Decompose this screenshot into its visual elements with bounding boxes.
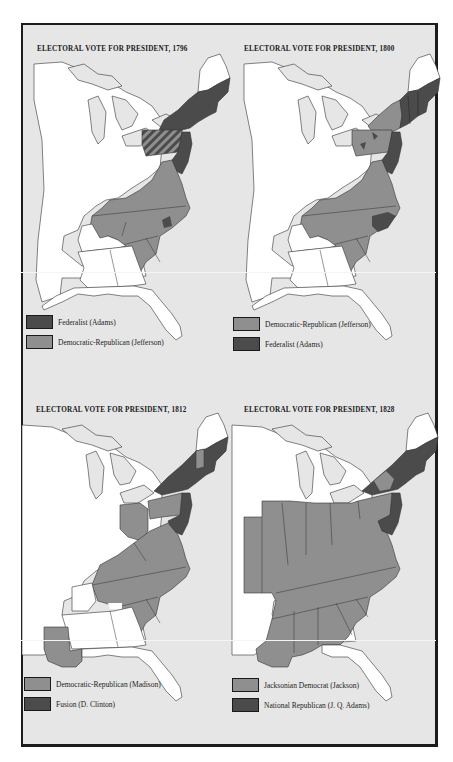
legend-swatch-dark <box>24 697 51 711</box>
legend-swatch-dark <box>26 315 53 329</box>
electoral-maps <box>0 0 453 762</box>
legend-item-fusion-1812: Fusion (D. Clinton) <box>24 697 115 711</box>
legend-label: Democratic-Republican (Jefferson) <box>265 320 371 329</box>
map-1828 <box>232 413 438 701</box>
legend-label: Democratic-Republican (Madison) <box>56 680 161 689</box>
map-1796 <box>34 54 230 340</box>
legend-swatch-dark <box>232 698 259 712</box>
legend-label: Federalist (Adams) <box>265 340 323 349</box>
map-title-1796: ELECTORAL VOTE FOR PRESIDENT, 1796 <box>37 45 188 53</box>
map-title-1828: ELECTORAL VOTE FOR PRESIDENT, 1828 <box>244 406 395 414</box>
page-fold-line <box>21 640 436 641</box>
legend-label: Fusion (D. Clinton) <box>56 700 115 709</box>
legend-item-federalist-1796: Federalist (Adams) <box>26 315 116 329</box>
legend-item-dem-rep-1800: Democratic-Republican (Jefferson) <box>233 317 371 331</box>
legend-label: Federalist (Adams) <box>58 318 116 327</box>
legend-item-dem-rep-1796: Democratic-Republican (Jefferson) <box>26 335 164 349</box>
legend-label: Jacksonian Democrat (Jackson) <box>264 681 359 690</box>
map-1800 <box>244 54 440 340</box>
legend-swatch-light <box>26 335 53 349</box>
legend-swatch-light <box>24 677 51 691</box>
legend-item-jacksonian-1828: Jacksonian Democrat (Jackson) <box>232 678 359 692</box>
legend-swatch-light <box>233 317 260 331</box>
legend-item-dem-rep-1812: Democratic-Republican (Madison) <box>24 677 161 691</box>
legend-swatch-light <box>232 678 259 692</box>
legend-label: National Republican (J. Q. Adams) <box>264 701 369 710</box>
page-fold-line <box>21 272 436 273</box>
legend-swatch-dark <box>233 337 260 351</box>
map-title-1800: ELECTORAL VOTE FOR PRESIDENT, 1800 <box>244 45 395 53</box>
map-1812 <box>22 413 228 701</box>
legend-item-federalist-1800: Federalist (Adams) <box>233 337 323 351</box>
legend-item-national-rep-1828: National Republican (J. Q. Adams) <box>232 698 369 712</box>
map-title-1812: ELECTORAL VOTE FOR PRESIDENT, 1812 <box>36 406 187 414</box>
legend-label: Democratic-Republican (Jefferson) <box>58 338 164 347</box>
